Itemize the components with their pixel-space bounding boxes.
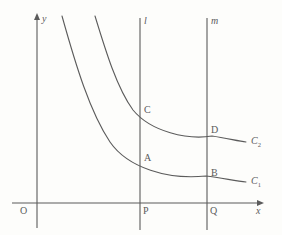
- y-axis: [34, 13, 40, 228]
- geometry-figure: y x O l m P Q A B C D C2 C1: [0, 0, 282, 235]
- diagram-canvas: [0, 0, 282, 235]
- line-l-label: l: [144, 16, 147, 26]
- curve-c2-label: C2: [251, 136, 261, 149]
- point-d-label: D: [211, 125, 218, 135]
- curve-c1-label: C1: [251, 176, 261, 189]
- curve-c1-letter: C: [251, 175, 258, 186]
- point-q-label: Q: [210, 206, 217, 216]
- point-b-label: B: [211, 168, 218, 178]
- origin-label: O: [20, 206, 27, 216]
- point-a-label: A: [144, 153, 151, 163]
- curve-c2: [95, 16, 246, 142]
- curve-c2-subscript: 2: [258, 141, 261, 148]
- line-m-label: m: [211, 16, 218, 26]
- y-axis-arrow-icon: [34, 13, 40, 20]
- curve-c1-subscript: 1: [258, 181, 261, 188]
- point-c-label: C: [144, 105, 151, 115]
- x-axis-label: x: [256, 206, 260, 216]
- point-p-label: P: [143, 206, 149, 216]
- curve-c1: [62, 16, 246, 182]
- curve-c2-letter: C: [251, 135, 258, 146]
- x-axis: [12, 200, 264, 206]
- y-axis-label: y: [42, 14, 46, 24]
